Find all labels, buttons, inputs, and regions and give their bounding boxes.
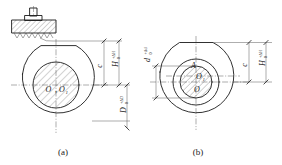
- dimension-c-a: c: [95, 39, 106, 88]
- center-label-b-O1-index: 1: [203, 77, 206, 82]
- center-label-b-O1: O: [196, 72, 202, 81]
- dim-D-a-tol-lower: 0: [124, 102, 129, 104]
- figure-a: O , O 1 c H +ΔH 0: [11, 6, 130, 157]
- dim-H-a-label: H: [111, 60, 120, 68]
- center-label-a-comma: ,: [55, 85, 57, 94]
- dim-H-a-tol-lower: 0: [116, 57, 121, 59]
- v-block-clamp: [12, 6, 74, 41]
- technical-drawing-sheet: O , O 1 c H +ΔH 0: [0, 0, 282, 165]
- caption-figure-b: (b): [193, 147, 204, 157]
- dimension-H-a: H +ΔH 0: [111, 39, 122, 88]
- dimension-D-a: D +ΔD 0: [119, 83, 130, 131]
- dimension-c-b: c: [240, 40, 251, 84]
- bore-hatching-b: [178, 64, 216, 102]
- point-label-A: A: [190, 61, 196, 70]
- figure-b: A O 1 O d +Δd 0: [143, 36, 272, 157]
- workpiece-bore-b: [178, 64, 216, 102]
- dim-d-b-label: d: [143, 57, 152, 62]
- center-label-a-O1-index: 1: [66, 90, 69, 95]
- caption-figure-a: (a): [58, 147, 68, 157]
- dim-H-b-label: H: [258, 59, 267, 67]
- bore-hatching-a: [30, 58, 86, 114]
- dim-d-b-tol-lower: 0: [148, 52, 153, 54]
- workpiece-bore-a: [30, 58, 86, 114]
- center-point-label-a: O , O 1: [46, 85, 69, 95]
- dimension-d-b: d +Δd 0: [143, 46, 159, 100]
- point-A-marker-b: A: [190, 61, 196, 70]
- center-label-a-O: O: [46, 85, 52, 94]
- dim-H-b-tol-lower: 0: [263, 56, 268, 58]
- dimension-H-b: H +ΔH 0: [258, 40, 269, 84]
- clamp-serrated-face: [14, 33, 53, 38]
- clamp-body-hatching: [12, 20, 56, 33]
- clamp-contact-leader: [40, 38, 53, 41]
- dim-D-a-label: D: [119, 107, 128, 114]
- dim-c-b-label: c: [240, 63, 249, 67]
- center-label-a-O1: O: [59, 85, 65, 94]
- dim-c-a-label: c: [95, 64, 104, 68]
- center-label-b-O: O: [194, 85, 200, 94]
